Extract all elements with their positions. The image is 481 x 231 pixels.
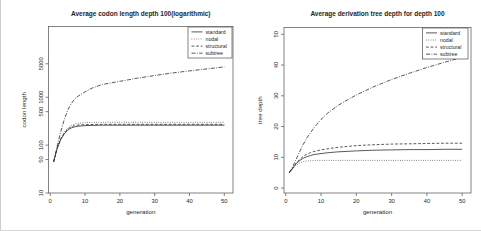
legend: standardnodalstructuralsubtree (188, 27, 232, 58)
y-tick-label: 30 (274, 93, 280, 99)
series-subtree-line (289, 57, 462, 172)
series-nodal-line (289, 160, 462, 172)
charts-svg: Average codon length depth 100(logarithm… (1, 0, 481, 231)
x-tick-label: 10 (318, 198, 324, 204)
x-tick-label: 50 (221, 198, 227, 204)
series-standard-line (289, 149, 462, 172)
x-tick-label: 10 (82, 198, 88, 204)
y-tick-label: 20 (274, 123, 280, 129)
y-tick-label: 100 (38, 140, 44, 150)
tree-depth-chart: Average derivation tree depth for depth … (256, 10, 471, 215)
legend-nodal-label: nodal (206, 36, 219, 42)
y-axis-label: codon length (20, 91, 27, 127)
x-tick-label: 30 (151, 198, 157, 204)
legend-subtree-label: subtree (206, 50, 223, 56)
y-tick-label: 500 (38, 107, 44, 117)
x-tick-label: 20 (117, 198, 123, 204)
series-standard-line (54, 125, 225, 162)
x-tick-label: 20 (353, 198, 359, 204)
chart-title: Average codon length depth 100(logarithm… (71, 10, 211, 18)
y-tick-label: 0 (274, 186, 280, 189)
legend-structural-label: structural (440, 44, 461, 50)
y-axis-label: tree depth (256, 96, 263, 124)
series-structural-line (54, 124, 225, 161)
legend-structural-label: structural (206, 43, 227, 49)
x-axis-label: generation (126, 208, 156, 215)
legend-subtree-label: subtree (440, 51, 457, 57)
x-tick-label: 0 (284, 198, 287, 204)
y-tick-label: 5000 (38, 57, 44, 70)
x-tick-label: 40 (186, 198, 192, 204)
x-tick-label: 30 (388, 198, 394, 204)
codon-length-chart: Average codon length depth 100(logarithm… (20, 10, 233, 215)
chart-title: Average derivation tree depth for depth … (310, 10, 445, 18)
series-structural-line (289, 143, 462, 173)
y-tick-label: 40 (274, 62, 280, 68)
y-tick-label: 10 (274, 154, 280, 160)
y-tick-label: 50 (38, 156, 44, 162)
y-tick-label: 10 (38, 190, 44, 196)
legend: standardnodalstructuralsubtree (423, 28, 469, 59)
legend-standard-label: standard (440, 30, 460, 36)
series-nodal-line (54, 122, 225, 161)
figure-canvas: Average codon length depth 100(logarithm… (0, 0, 481, 231)
legend-standard-label: standard (206, 29, 226, 35)
x-axis-label: generation (363, 208, 393, 215)
x-tick-label: 0 (49, 198, 52, 204)
x-tick-label: 50 (459, 198, 465, 204)
series-subtree-line (54, 67, 225, 162)
y-tick-label: 50 (274, 31, 280, 37)
y-tick-label: 1000 (38, 91, 44, 104)
x-tick-label: 40 (424, 198, 430, 204)
legend-nodal-label: nodal (440, 37, 453, 43)
